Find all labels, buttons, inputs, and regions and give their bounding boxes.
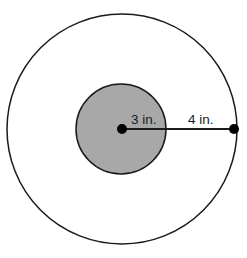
diagram-canvas: 3 in. 4 in.	[0, 0, 247, 258]
center-point-dot	[117, 124, 127, 134]
inner-radius-label: 3 in.	[131, 112, 157, 127]
outer-edge-point-dot	[229, 124, 239, 134]
concentric-circles-diagram: 3 in. 4 in.	[0, 0, 247, 258]
annulus-width-label: 4 in.	[188, 112, 214, 127]
